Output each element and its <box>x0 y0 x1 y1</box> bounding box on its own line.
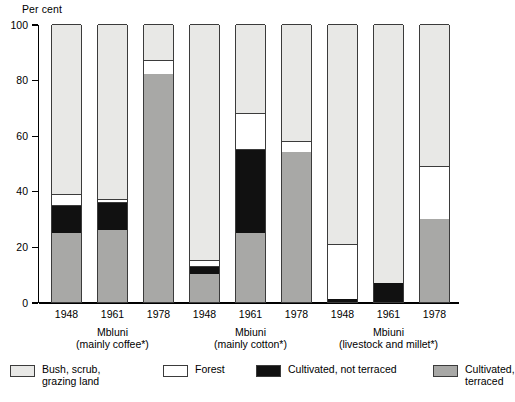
bar-segment-terraced <box>144 74 173 302</box>
legend-item[interactable]: Bush, scrub, grazing land <box>10 364 100 387</box>
group-name: Mbiuni <box>304 327 474 339</box>
legend-swatch-bush <box>10 365 35 377</box>
y-axis-tick-label: 40 <box>2 186 28 196</box>
bar-segment-forest <box>328 244 357 300</box>
bar-segment-notterr <box>190 266 219 274</box>
bar-stack <box>51 25 82 303</box>
bar-segment-bush <box>374 24 403 283</box>
bar-segment-terraced <box>52 233 81 303</box>
bar-segment-terraced <box>190 274 219 302</box>
bar-stack <box>327 25 358 303</box>
bar-segment-forest <box>282 141 311 152</box>
bar-segment-terraced <box>98 230 127 302</box>
bar-segment-notterr <box>328 299 357 302</box>
group-subtitle: (livestock and millet*) <box>304 339 474 351</box>
bar-stack <box>235 25 266 303</box>
plot-area <box>39 25 459 303</box>
bar-segment-forest <box>52 194 81 205</box>
y-axis-title: Per cent <box>22 3 62 15</box>
bar-segment-bush <box>236 24 265 113</box>
legend-swatch-forest <box>163 365 188 377</box>
bar-segment-bush <box>328 24 357 244</box>
bar-stack <box>97 25 128 303</box>
y-axis-tick-label: 80 <box>2 75 28 85</box>
bar-segment-bush <box>190 24 219 260</box>
y-axis-tick-mark <box>32 136 38 137</box>
legend-label: Bush, scrub, grazing land <box>42 364 100 387</box>
bar-stack <box>281 25 312 303</box>
bar-segment-bush <box>52 24 81 194</box>
bar-segment-bush <box>282 24 311 141</box>
y-axis-tick-label: 60 <box>2 131 28 141</box>
bar-segment-terraced <box>282 152 311 302</box>
bar-segment-forest <box>144 60 173 74</box>
bar-segment-forest <box>420 166 449 219</box>
chart-legend: Bush, scrub, grazing landForestCultivate… <box>6 364 457 398</box>
bar-segment-terraced <box>420 219 449 302</box>
bar-segment-forest <box>236 113 265 149</box>
bar-segment-notterr <box>236 149 265 232</box>
x-axis-year-label: 1978 <box>405 308 465 320</box>
y-axis-tick-mark <box>32 247 38 248</box>
bar-segment-terraced <box>236 233 265 303</box>
bar-stack <box>189 25 220 303</box>
bar-segment-notterr <box>98 202 127 230</box>
bar-stack <box>419 25 450 303</box>
legend-swatch-terraced <box>433 365 458 377</box>
bar-segment-bush <box>144 24 173 60</box>
legend-label: Cultivated, terraced <box>465 364 515 387</box>
bar-stack <box>143 25 174 303</box>
bar-segment-forest <box>190 260 219 266</box>
bar-segment-bush <box>420 24 449 166</box>
bar-segment-notterr <box>374 283 403 302</box>
y-axis-tick-mark <box>32 302 38 303</box>
bar-stack <box>373 25 404 303</box>
legend-item[interactable]: Cultivated, terraced <box>433 364 515 387</box>
y-axis-tick-label: 20 <box>2 242 28 252</box>
y-axis-tick-label: 100 <box>2 20 28 30</box>
group-label: Mbiuni(livestock and millet*) <box>304 327 474 350</box>
y-axis-tick-mark <box>32 24 38 25</box>
legend-swatch-notterr <box>256 365 281 377</box>
bar-segment-forest <box>98 199 127 202</box>
legend-item[interactable]: Cultivated, not terraced <box>256 364 397 377</box>
y-axis-tick-mark <box>32 80 38 81</box>
legend-item[interactable]: Forest <box>163 364 225 377</box>
bar-segment-notterr <box>52 205 81 233</box>
y-axis-tick-mark <box>32 191 38 192</box>
y-axis-tick-label: 0 <box>2 298 28 308</box>
legend-label: Forest <box>195 364 225 376</box>
legend-label: Cultivated, not terraced <box>288 364 397 376</box>
bar-segment-bush <box>98 24 127 199</box>
